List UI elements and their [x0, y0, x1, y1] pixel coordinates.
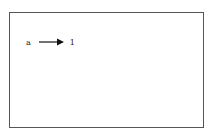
mapping-target: 1 — [70, 38, 75, 47]
right-arrow-icon — [39, 38, 64, 46]
mapping-source: a — [26, 38, 31, 47]
mapping-row: a 1 — [26, 36, 75, 48]
diagram-frame — [9, 12, 204, 128]
